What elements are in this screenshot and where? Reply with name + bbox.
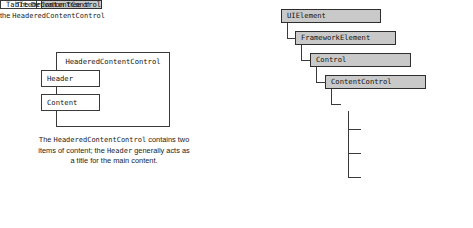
left-caption-line-2: items of content; the Header generally a… <box>14 146 214 157</box>
connector-contentcontrol-headeredcontentcontrol-horizontal <box>331 104 341 105</box>
right-caption-line-2: the HeaderedContentControl <box>0 11 105 22</box>
connector-uielement-frameworkelement-horizontal <box>287 38 296 39</box>
tree-node-uielement-label: UIElement <box>287 12 326 19</box>
tree-node-frameworkelement: FrameworkElement <box>295 31 396 45</box>
tree-node-contentcontrol-label: ContentControl <box>331 78 392 85</box>
content-box-label: Content <box>47 99 77 106</box>
connector-contentcontrol-headeredcontentcontrol-vertical <box>331 89 332 104</box>
connector-control-contentcontrol-vertical <box>316 67 317 82</box>
right-caption-l2-a: the <box>0 11 12 20</box>
connector-leaves-spine <box>348 111 349 178</box>
right-caption-line-1: The Derivation Tree of <box>0 0 105 11</box>
connector-leaf-expander-stub <box>348 153 361 154</box>
headered-content-control-outer-label: HeaderedContentControl <box>65 58 160 65</box>
left-caption-l1-b: contains two <box>146 135 189 144</box>
left-caption-l2-mono: Header <box>107 147 132 155</box>
connector-control-contentcontrol-horizontal <box>316 82 326 83</box>
headered-content-control-outer-box: HeaderedContentControl <box>56 52 170 127</box>
tree-node-uielement: UIElement <box>281 9 381 23</box>
left-caption-l2-a: items of content; the <box>38 146 107 155</box>
connector-frameworkelement-control-vertical <box>301 45 302 60</box>
left-caption-l1-a: The <box>39 135 54 144</box>
header-box: Header <box>41 70 100 87</box>
connector-frameworkelement-control-horizontal <box>301 60 311 61</box>
connector-leaf-tabitem-stub <box>348 177 361 178</box>
left-caption-l1-mono: HeaderedContentControl <box>53 136 146 144</box>
connector-uielement-frameworkelement-vertical <box>287 23 288 38</box>
right-caption-l2-mono: HeaderedContentControl <box>12 12 105 20</box>
diagram-canvas: HeaderedContentControl Header Content Th… <box>0 0 473 228</box>
tree-node-contentcontrol: ContentControl <box>325 75 426 89</box>
left-caption-line-1: The HeaderedContentControl contains two <box>14 135 214 146</box>
content-box: Content <box>41 94 100 111</box>
tree-node-control-label: Control <box>316 56 346 63</box>
outer-box-left-edge <box>56 52 57 127</box>
left-caption-line-3: a title for the main content. <box>14 156 214 167</box>
connector-leaf-groupbox-stub <box>348 129 361 130</box>
left-caption-l2-b: generally acts as <box>132 146 190 155</box>
tree-node-frameworkelement-label: FrameworkElement <box>301 34 370 41</box>
header-box-label: Header <box>47 75 73 82</box>
right-diagram-caption: The Derivation Tree of the HeaderedConte… <box>0 0 105 21</box>
left-diagram-caption: The HeaderedContentControl contains two … <box>14 135 214 167</box>
tree-node-control: Control <box>310 53 411 67</box>
